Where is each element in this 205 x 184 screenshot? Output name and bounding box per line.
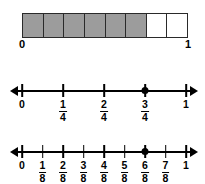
fraction-denominator: 8	[121, 172, 129, 184]
fraction-denominator: 4	[141, 111, 149, 123]
fraction-numerator: 4	[100, 160, 108, 171]
bar-cell-8	[167, 14, 187, 37]
fraction-denominator: 8	[141, 172, 149, 184]
tick-label-0-1: 14	[59, 99, 67, 123]
fraction-numerator: 1	[59, 99, 67, 110]
fraction-numerator: 1	[39, 160, 47, 171]
fraction: 24	[100, 99, 108, 123]
fraction-bar-model	[22, 13, 188, 38]
bar-cell-3	[64, 14, 85, 37]
fraction: 14	[59, 99, 67, 123]
fraction-denominator: 4	[100, 111, 108, 123]
marked-point-dot	[142, 148, 149, 155]
tick-label-1-8: 1	[183, 160, 189, 171]
tick-1-2	[62, 145, 64, 158]
tick-label-1-5: 58	[121, 160, 129, 183]
whole-number-label: 1	[183, 99, 189, 110]
fraction: 38	[80, 160, 88, 183]
fraction-denominator: 8	[162, 172, 170, 184]
tick-1-5	[124, 145, 126, 158]
tick-label-1-2: 28	[59, 160, 67, 183]
tick-1-0	[21, 145, 23, 158]
tick-label-1-7: 78	[162, 160, 170, 183]
fraction: 58	[121, 160, 129, 183]
tick-label-0-3: 34	[141, 99, 149, 123]
fraction: 28	[59, 160, 67, 183]
fraction-numerator: 2	[100, 99, 108, 110]
bar-end-label: 1	[181, 38, 195, 51]
tick-label-0-0: 0	[19, 99, 25, 110]
tick-1-8	[185, 145, 187, 158]
tick-0-0	[21, 84, 23, 97]
fraction-denominator: 8	[80, 172, 88, 184]
fraction-numerator: 3	[80, 160, 88, 171]
fraction-denominator: 8	[59, 172, 67, 184]
bar-cell-7	[147, 14, 168, 37]
tick-label-1-6: 68	[141, 160, 149, 183]
arrow-right-icon	[190, 86, 198, 96]
bar-cell-4	[85, 14, 106, 37]
marked-point-dot	[142, 87, 149, 94]
tick-label-0-2: 24	[100, 99, 108, 123]
fraction-denominator: 8	[39, 172, 47, 184]
tick-label-1-3: 38	[80, 160, 88, 183]
number-line-fourths: 01424341	[0, 72, 205, 118]
whole-number-label: 0	[19, 160, 25, 171]
bar-cell-6	[126, 14, 147, 37]
fraction-numerator: 6	[141, 160, 149, 171]
axis-fourths	[10, 84, 198, 98]
fraction: 34	[141, 99, 149, 123]
arrow-left-icon	[10, 86, 18, 96]
fraction: 78	[162, 160, 170, 183]
tick-1-4	[103, 145, 105, 158]
fraction-numerator: 3	[141, 99, 149, 110]
fraction-denominator: 4	[59, 111, 67, 123]
fraction-numerator: 7	[162, 160, 170, 171]
whole-number-label: 1	[183, 160, 189, 171]
axis-eighths	[10, 145, 198, 159]
whole-number-label: 0	[19, 99, 25, 110]
tick-1-7	[165, 145, 167, 158]
fraction-numerator: 5	[121, 160, 129, 171]
tick-0-1	[62, 84, 64, 97]
bar-cell-2	[44, 14, 65, 37]
tick-0-2	[103, 84, 105, 97]
fraction-denominator: 8	[100, 172, 108, 184]
tick-0-4	[185, 84, 187, 97]
tick-1-3	[83, 145, 85, 158]
tick-1-1	[42, 145, 44, 158]
fraction-numerator: 2	[59, 160, 67, 171]
bar-cell-1	[23, 14, 44, 37]
fraction: 18	[39, 160, 47, 183]
arrow-right-icon	[190, 147, 198, 157]
arrow-left-icon	[10, 147, 18, 157]
fraction: 68	[141, 160, 149, 183]
fraction: 48	[100, 160, 108, 183]
tick-label-1-1: 18	[39, 160, 47, 183]
tick-label-1-4: 48	[100, 160, 108, 183]
number-line-eighths: 0182838485868781	[0, 133, 205, 181]
bar-start-label: 0	[15, 38, 29, 51]
tick-label-1-0: 0	[19, 160, 25, 171]
tick-label-0-4: 1	[183, 99, 189, 110]
fraction-models-figure: 0 1 01424341 0182838485868781	[0, 0, 205, 183]
bar-cell-5	[106, 14, 127, 37]
